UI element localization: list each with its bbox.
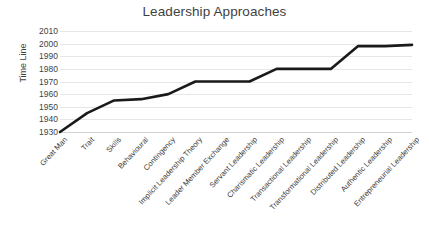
x-tick-label-text: Trait	[80, 133, 99, 152]
x-tick-label: Trait	[80, 133, 99, 152]
y-tick-label: 2000	[22, 39, 58, 48]
y-tick-label: 1980	[22, 65, 58, 74]
plot-area	[60, 31, 412, 132]
x-tick-label-text: Great Man	[39, 133, 72, 168]
y-tick-label: 1960	[22, 90, 58, 99]
x-axis-category-labels: Great ManTraitSkillsBehaviouralContingen…	[60, 133, 412, 242]
y-axis-tick-labels: 201020001990198019701960195019401930	[22, 31, 58, 132]
chart-title: Leadership Approaches	[0, 4, 429, 19]
y-tick-label: 2010	[22, 27, 58, 36]
y-tick-label: 1950	[22, 103, 58, 112]
line-chart: Leadership Approaches Time Line 20102000…	[0, 0, 429, 242]
y-tick-label: 1930	[22, 128, 58, 137]
y-tick-label: 1990	[22, 52, 58, 61]
y-tick-label: 1940	[22, 115, 58, 124]
x-tick-label: Skills	[105, 133, 126, 154]
y-tick-label: 1970	[22, 77, 58, 86]
data-series-line	[60, 31, 412, 132]
x-tick-label: Great Man	[39, 133, 72, 168]
series-polyline	[60, 45, 412, 132]
x-tick-label-text: Skills	[105, 133, 126, 154]
